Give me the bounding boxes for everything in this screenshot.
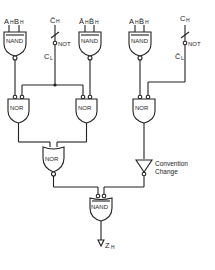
svg-text:Change: Change xyxy=(155,168,178,176)
not-gate-right: C H NOT C̄ L xyxy=(148,14,201,95)
svg-text:NOT: NOT xyxy=(58,41,71,47)
svg-text:A: A xyxy=(129,17,134,26)
svg-text:B̄: B̄ xyxy=(139,17,144,26)
nor-gate-left: NOR xyxy=(8,95,29,142)
svg-text:Ā: Ā xyxy=(79,17,84,26)
svg-text:NOR: NOR xyxy=(45,156,59,162)
svg-text:NAND: NAND xyxy=(6,38,24,44)
svg-text:NOR: NOR xyxy=(78,105,92,111)
logic-diagram: A H B H NAND C̄ H NOT C L Ā H B̄ H NAND xyxy=(0,0,215,270)
svg-text:H: H xyxy=(111,244,115,250)
svg-text:B̄: B̄ xyxy=(89,17,94,26)
nor-gate-bottom: NOR xyxy=(43,147,64,187)
svg-text:NAND: NAND xyxy=(131,38,149,44)
nand-gate-final: NAND xyxy=(90,194,112,240)
svg-text:A: A xyxy=(4,17,9,26)
nor-gate-right: NOR xyxy=(133,95,155,159)
svg-text:NOR: NOR xyxy=(10,105,24,111)
svg-text:Z: Z xyxy=(105,241,110,250)
svg-text:H: H xyxy=(145,19,149,25)
svg-text:H: H xyxy=(20,19,24,25)
svg-text:L: L xyxy=(50,55,53,61)
svg-text:NAND: NAND xyxy=(81,38,99,44)
nor-gate-mid: NOR xyxy=(76,95,97,142)
svg-text:H: H xyxy=(56,18,60,24)
convention-change-buffer: Convention Change xyxy=(136,160,188,187)
svg-text:B: B xyxy=(14,17,19,26)
svg-text:NOT: NOT xyxy=(188,41,201,47)
svg-text:H: H xyxy=(95,19,99,25)
svg-text:Convention: Convention xyxy=(155,160,188,167)
nand-gate-left: A H B H NAND xyxy=(4,17,26,95)
svg-text:L: L xyxy=(181,55,184,61)
not-gate-left: C̄ H NOT C L xyxy=(44,16,71,87)
svg-text:NAND: NAND xyxy=(91,204,109,210)
nand-gate-mid: Ā H B̄ H NAND xyxy=(79,17,101,95)
svg-text:NOR: NOR xyxy=(135,105,149,111)
svg-text:H: H xyxy=(186,17,190,23)
output-zh: Z H xyxy=(98,240,115,250)
